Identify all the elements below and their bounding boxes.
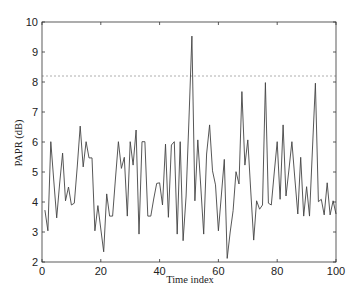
y-tick-label: 6 bbox=[32, 136, 38, 148]
y-axis-ticks: 2345678910 bbox=[26, 16, 336, 268]
papr-line-chart: 020406080100 2345678910 Time index PAPR … bbox=[0, 0, 361, 296]
x-tick-label: 100 bbox=[327, 265, 345, 277]
y-tick-label: 7 bbox=[32, 106, 38, 118]
x-tick-label: 20 bbox=[95, 265, 107, 277]
data-series-line bbox=[45, 36, 336, 258]
y-axis-label: PAPR (dB) bbox=[13, 119, 25, 167]
y-tick-label: 5 bbox=[32, 166, 38, 178]
y-tick-label: 4 bbox=[32, 196, 38, 208]
x-tick-label: 0 bbox=[39, 265, 45, 277]
x-tick-label: 60 bbox=[212, 265, 224, 277]
y-tick-label: 8 bbox=[32, 76, 38, 88]
y-tick-label: 2 bbox=[32, 256, 38, 268]
x-tick-label: 80 bbox=[271, 265, 283, 277]
y-tick-label: 10 bbox=[26, 16, 38, 28]
papr-series-line bbox=[45, 36, 336, 258]
y-tick-label: 3 bbox=[32, 226, 38, 238]
y-tick-label: 9 bbox=[32, 46, 38, 58]
x-axis-label: Time index bbox=[166, 274, 214, 285]
x-tick-label: 40 bbox=[153, 265, 165, 277]
